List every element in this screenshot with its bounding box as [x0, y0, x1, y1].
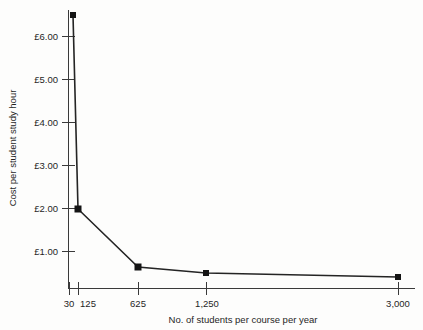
y-tick-label-3: £3.00	[34, 160, 58, 171]
data-point-3000	[395, 274, 401, 280]
data-point-30	[70, 12, 76, 18]
x-tick-label-1250: 1,250	[195, 298, 219, 309]
y-tick-label-6: £6.00	[34, 31, 58, 42]
y-tick-label-2: £2.00	[34, 203, 58, 214]
x-tick-label-625: 625	[130, 298, 146, 309]
x-tick-label-125: 125	[80, 298, 96, 309]
line-chart: £6.00 £5.00 £4.00 £3.00 £2.00 £1.00 30 1…	[0, 0, 423, 330]
y-tick-label-4: £4.00	[34, 117, 58, 128]
x-tick-label-3000: 3,000	[386, 298, 410, 309]
data-point-625	[135, 264, 142, 271]
data-series-line	[73, 15, 398, 277]
x-axis-title: No. of students per course per year	[169, 314, 318, 325]
chart-page: £6.00 £5.00 £4.00 £3.00 £2.00 £1.00 30 1…	[0, 0, 423, 330]
data-point-1250	[203, 270, 209, 276]
y-axis-title: Cost per student study hour	[7, 90, 18, 207]
data-point-125	[75, 206, 82, 213]
y-tick-label-5: £5.00	[34, 74, 58, 85]
y-tick-label-1: £1.00	[34, 246, 58, 257]
x-tick-label-30: 30	[64, 298, 75, 309]
